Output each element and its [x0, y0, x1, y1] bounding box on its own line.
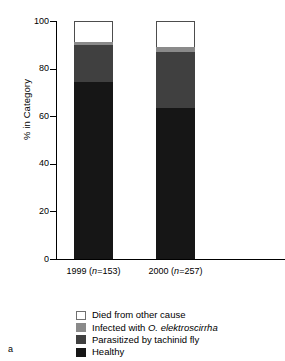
y-tick-mark: [50, 211, 56, 212]
legend-item: Parasitized by tachinid fly: [76, 334, 281, 346]
legend-swatch: [76, 311, 86, 320]
y-tick-label: 100: [9, 17, 49, 26]
legend-label: Infected with O. elektroscirrha: [92, 323, 218, 333]
y-tick-label: 20: [9, 207, 49, 216]
y-tick-mark: [50, 69, 56, 70]
legend-item: Infected with O. elektroscirrha: [76, 321, 281, 333]
y-tick-label: 80: [9, 64, 49, 73]
y-tick-label: 40: [9, 159, 49, 168]
y-tick-mark: [50, 116, 56, 117]
legend-label: Parasitized by tachinid fly: [92, 335, 199, 345]
y-tick-mark: [50, 21, 56, 22]
bar-segment: [74, 45, 113, 82]
legend-item: Died from other cause: [76, 309, 281, 321]
y-tick-label: 60: [9, 112, 49, 121]
y-tick-mark: [50, 259, 56, 260]
stacked-bar: [74, 21, 113, 259]
bar-segment: [156, 21, 195, 47]
legend-label: Healthy: [92, 347, 124, 357]
bar-segment: [74, 82, 113, 259]
chart-legend: Died from other causeInfected with O. el…: [76, 309, 281, 359]
legend-swatch: [76, 348, 86, 357]
bar-segment: [156, 47, 195, 52]
x-axis-line: [56, 259, 285, 260]
bar-segment: [74, 21, 113, 42]
y-tick-label: 0: [9, 255, 49, 264]
stacked-bar: [156, 21, 195, 259]
legend-swatch: [76, 335, 86, 344]
x-axis-label: 2000 (n=257): [116, 266, 236, 276]
figure-panel-a: % in Category 020406080100 1999 (n=153)2…: [0, 0, 285, 361]
bar-segment: [74, 42, 113, 44]
legend-swatch: [76, 323, 86, 332]
y-axis-line: [56, 21, 57, 260]
plot-area: % in Category 020406080100 1999 (n=153)2…: [0, 0, 285, 285]
legend-label: Died from other cause: [92, 310, 185, 320]
bar-segment: [156, 52, 195, 108]
legend-item: Healthy: [76, 346, 281, 358]
bar-segment: [156, 108, 195, 259]
y-tick-mark: [50, 164, 56, 165]
panel-label: a: [8, 344, 13, 354]
